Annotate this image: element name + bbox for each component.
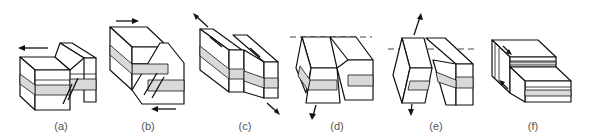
panel-b-diagram (110, 18, 184, 112)
panel-label-e: (e) (429, 120, 442, 132)
panel-label-c: (c) (239, 120, 252, 132)
panel-label-f: (f) (528, 120, 538, 132)
panel-f-diagram (492, 40, 571, 102)
panel-label-d: (d) (330, 120, 343, 132)
panel-a-diagram (18, 43, 96, 110)
panel-label-a: (a) (54, 120, 67, 132)
fault-types-figure (0, 0, 591, 137)
panel-d-diagram (290, 37, 373, 120)
panel-label-b: (b) (141, 120, 154, 132)
panel-c-diagram (193, 13, 280, 115)
panel-e-diagram (388, 13, 475, 116)
